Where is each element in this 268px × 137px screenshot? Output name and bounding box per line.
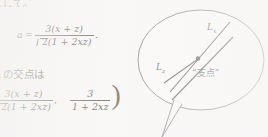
label-lx-base: L [206,22,213,32]
top-line-text: 入して。 [0,0,34,7]
equation-a-fraction: 3(x + z) 2(1 + 2xz) [35,24,94,48]
equals-sign: = [25,29,33,40]
equation-a-numerator: 3(x + z) [35,24,94,34]
equation-a-denominator: 2(1 + 2xz) [35,37,94,47]
coordinate-second-numerator: 3 [70,89,110,99]
square-root-icon: 2 [37,37,48,47]
speech-bubble-diagram: Lx Lz “支点” [134,0,268,137]
equation-a-period: . [95,29,98,40]
coordinate-first-radicand: 2 [1,101,7,112]
square-root-icon: 2 [0,102,7,112]
scanned-page: 入して。 a= 3(x + z) 2(1 + 2xz) . xzの交点は 3(x… [0,0,268,137]
text-column: 入して。 a= 3(x + z) 2(1 + 2xz) . xzの交点は 3(x… [0,0,150,137]
coordinate-first-denominator-rest: (1 + 2xz) [7,101,51,112]
coordinate-closing-paren: ) [111,79,120,110]
coordinate-first-denominator: 2(1 + 2xz) [0,102,53,112]
coordinate-first-numerator: 3(x + z) [0,89,53,99]
fulcrum-point [196,56,201,61]
leading-subscript: xz [0,74,1,79]
coordinate-second-denominator: 1 + 2xz [70,102,110,112]
equation-a-denominator-rest: (1 + 2xz) [48,36,92,47]
middle-line-text: の交点は [3,68,45,79]
coordinate-first-fraction: 3(x + z) 2(1 + 2xz) [0,89,53,113]
label-lz-base: L [155,62,162,72]
equation-a-radicand: 2 [42,36,48,47]
speech-bubble-tail [162,100,182,137]
coordinate-pair-expression: 3(x + z) 2(1 + 2xz) , 3 1 + 2xz ) [0,89,120,113]
middle-text-line: xzの交点は [0,64,45,79]
coordinate-separator: , [54,94,57,105]
fulcrum-caption: “支点” [192,67,219,78]
coordinate-second-fraction: 3 1 + 2xz [70,89,110,113]
clipped-top-text-line: 入して。 [0,0,34,7]
speech-bubble-outline [138,10,264,110]
equation-a-lhs: a [17,29,23,40]
equation-a: a= 3(x + z) 2(1 + 2xz) . [17,24,98,48]
